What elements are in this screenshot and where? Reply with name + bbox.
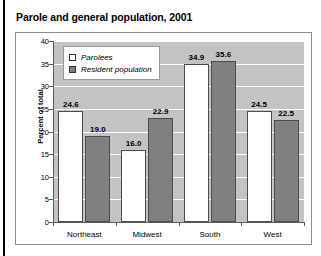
y-tick-mark: [49, 177, 53, 178]
y-tick-label: 30: [11, 82, 49, 91]
y-axis-line: [53, 41, 54, 223]
legend: ParoleesResident population: [63, 46, 160, 80]
chart-figure: Parole and general population, 2001 Perc…: [11, 0, 321, 256]
y-tick-mark: [49, 109, 53, 110]
bar-value-label: 34.9: [189, 53, 205, 62]
page-left-rule: [3, 0, 5, 256]
y-tick-label: 40: [11, 37, 49, 46]
bar-west-parolees: 24.5: [247, 111, 272, 222]
legend-swatch-icon: [69, 54, 76, 61]
x-tick-mark: [179, 222, 180, 226]
y-tick-label: 5: [11, 195, 49, 204]
bar-northeast-resident-population: 19.0: [85, 136, 110, 222]
bar-west-resident-population: 22.5: [274, 120, 299, 222]
y-tick-label: 25: [11, 104, 49, 113]
x-tick-mark: [53, 222, 54, 226]
bar-value-label: 24.6: [63, 100, 79, 109]
bar-midwest-resident-population: 22.9: [148, 118, 173, 222]
chart-title: Parole and general population, 2001: [16, 11, 192, 23]
x-tick-mark: [116, 222, 117, 226]
bar-value-label: 35.6: [216, 50, 232, 59]
y-tick-mark: [49, 132, 53, 133]
y-tick-mark: [49, 154, 53, 155]
bar-midwest-parolees: 16.0: [121, 150, 146, 222]
bar-value-label: 22.9: [153, 107, 169, 116]
bar-value-label: 24.5: [251, 100, 267, 109]
legend-swatch-icon: [69, 66, 76, 73]
x-tick-label-west: West: [233, 230, 313, 239]
y-tick-mark: [49, 199, 53, 200]
bar-northeast-parolees: 24.6: [58, 111, 83, 222]
y-tick-label: 0: [11, 218, 49, 227]
y-tick-mark: [49, 64, 53, 65]
bar-value-label: 16.0: [126, 139, 142, 148]
gridline: [53, 41, 304, 42]
legend-label: Parolees: [81, 53, 113, 62]
bar-value-label: 22.5: [278, 109, 294, 118]
y-tick-label: 15: [11, 150, 49, 159]
y-tick-mark: [49, 41, 53, 42]
legend-item-parolees: Parolees: [69, 51, 152, 63]
legend-label: Resident population: [81, 65, 152, 74]
y-tick-label: 10: [11, 172, 49, 181]
bar-south-resident-population: 35.6: [211, 61, 236, 222]
x-tick-mark: [241, 222, 242, 226]
y-tick-label: 20: [11, 127, 49, 136]
gridline: [53, 86, 304, 87]
legend-item-resident-population: Resident population: [69, 63, 152, 75]
bar-value-label: 19.0: [90, 125, 106, 134]
x-tick-mark: [304, 222, 305, 226]
bar-south-parolees: 34.9: [184, 64, 209, 222]
y-tick-mark: [49, 86, 53, 87]
y-tick-label: 35: [11, 59, 49, 68]
